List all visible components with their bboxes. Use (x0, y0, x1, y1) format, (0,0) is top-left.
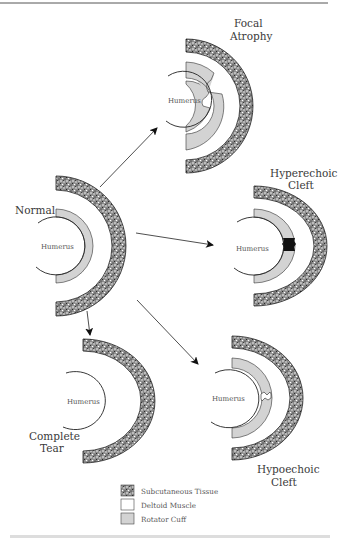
panel-title-line1: Hyperechoic (270, 167, 338, 179)
panel-hyperechoic-cleft: Humerus Hyperechoic Cleft (234, 167, 338, 306)
panel-title-line2: Atrophy (229, 30, 272, 42)
panel-title-line1: Complete (29, 430, 80, 442)
legend-swatch-rotator-cuff (121, 513, 134, 524)
panel-focal-atrophy: Humerus Focal Atrophy (166, 17, 272, 173)
rotator-cuff-outline (186, 62, 224, 150)
legend-swatch-subcutaneous (121, 485, 134, 496)
humerus-label: Humerus (67, 398, 100, 406)
panel-title-line1: Hypoechoic (257, 463, 320, 475)
panel-title-line2: Cleft (288, 179, 314, 191)
legend-label-deltoid: Deltoid Muscle (141, 501, 196, 510)
arrow-to-focal-atrophy (100, 128, 157, 187)
arrow-to-hyperechoic-cleft (136, 233, 213, 245)
humerus-label: Humerus (212, 395, 245, 403)
panel-complete-tear: Humerus Complete Tear (29, 339, 155, 463)
panel-hypoechoic-cleft: Humerus Hypoechoic Cleft (211, 336, 320, 488)
legend: Subcutaneous Tissue Deltoid Muscle Rotat… (121, 485, 218, 524)
rotator-cuff-diagram: Humerus Normal Humerus Focal Atrophy Hum… (0, 0, 341, 538)
panel-title-line1: Focal (234, 17, 263, 29)
arrow-to-hypoechoic-cleft (137, 300, 198, 364)
arrow-to-complete-tear (87, 311, 90, 335)
panel-title-normal: Normal (15, 204, 56, 216)
panel-title-line2: Cleft (271, 476, 297, 488)
panel-title-line2: Tear (40, 442, 65, 454)
legend-label-subcutaneous: Subcutaneous Tissue (141, 487, 218, 496)
humerus-label: Humerus (41, 243, 74, 251)
legend-swatch-deltoid (121, 499, 134, 510)
legend-label-rotator-cuff: Rotator Cuff (141, 515, 187, 524)
humerus-label: Humerus (236, 245, 269, 253)
panel-normal: Humerus Normal (15, 176, 126, 316)
humerus-label: Humerus (168, 97, 201, 105)
